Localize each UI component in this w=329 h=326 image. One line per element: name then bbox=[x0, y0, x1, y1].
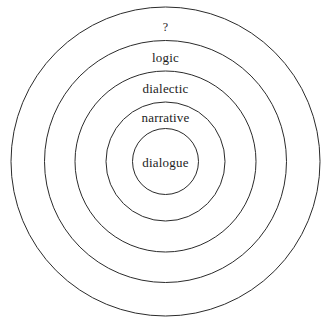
ring-label-unknown: ? bbox=[163, 21, 169, 33]
concentric-rings-diagram: ? logic dialectic narrative dialogue bbox=[0, 0, 329, 326]
ring-label-dialectic: dialectic bbox=[143, 82, 189, 95]
ring-label-dialogue: dialogue bbox=[142, 156, 188, 169]
ring-label-logic: logic bbox=[152, 51, 179, 64]
ring-label-narrative: narrative bbox=[142, 111, 190, 124]
